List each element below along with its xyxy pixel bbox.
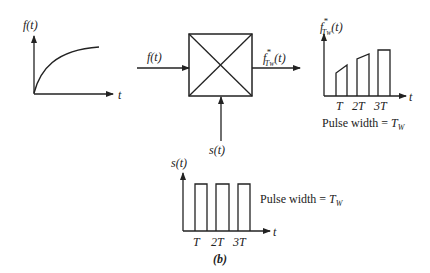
output-label: f*TW(t) [263,50,286,64]
switch-pulse-2 [216,184,229,231]
bottom-plot-axes [183,173,270,231]
bottom-tick-3T: 3T [233,236,246,248]
right-tick-2T: 2T [352,100,365,112]
right-tick-T: T [336,100,343,112]
bottom-pulse-width-note: Pulse width = TW [260,193,342,205]
bottom-tick-2T: 2T [211,236,224,248]
switch-pulse-1 [195,184,207,231]
left-plot-xlabel: t [118,89,121,101]
left-plot-axes [34,36,113,94]
right-plot-xlabel: t [409,91,412,103]
input-label: f(t) [147,51,162,63]
right-tick-3T: 3T [374,100,387,112]
sampled-pulse-1 [336,65,347,96]
right-pulse-width-note: Pulse width = TW [322,117,404,129]
sampled-pulse-2 [357,54,369,96]
diagram-canvas [0,0,430,273]
exponential-curve [34,47,99,93]
control-label: s(t) [209,144,225,156]
bottom-plot-xlabel: t [273,226,276,238]
switch-pulse-3 [238,184,250,231]
right-plot-ylabel: f*TW(t) [320,19,343,33]
bottom-tick-T: T [193,236,200,248]
left-plot-ylabel: f(t) [23,19,38,31]
bottom-plot-ylabel: s(t) [171,157,187,169]
figure-caption: (b) [213,253,227,265]
sampled-pulse-3 [378,50,390,96]
